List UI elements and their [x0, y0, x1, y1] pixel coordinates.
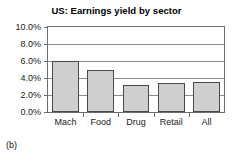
y-tick-label: 0.0% [20, 107, 41, 117]
y-axis: 0.0%2.0%4.0%6.0%8.0%10.0% [0, 26, 44, 113]
y-tick-label: 10.0% [15, 22, 41, 32]
bar [193, 82, 220, 112]
y-tick-label: 6.0% [20, 56, 41, 66]
y-tick-label: 4.0% [20, 73, 41, 83]
bar-slot [48, 27, 83, 112]
x-tick-label: Retail [160, 117, 183, 127]
x-tick-label: Food [91, 117, 112, 127]
x-tick-label: All [201, 117, 211, 127]
bar-slot [83, 27, 118, 112]
bar-slot [118, 27, 153, 112]
bar-slot [189, 27, 224, 112]
y-tick-label: 2.0% [20, 90, 41, 100]
bar [123, 85, 150, 112]
bar [52, 61, 79, 112]
bar [158, 83, 185, 112]
y-tick-label: 8.0% [20, 39, 41, 49]
figure-panel: US: Earnings yield by sector 0.0%2.0%4.0… [0, 0, 233, 164]
panel-caption: (b) [6, 140, 17, 150]
x-tick-label: Mach [55, 117, 77, 127]
bar-slot [154, 27, 189, 112]
bar [87, 70, 114, 113]
bar-series [48, 27, 224, 112]
chart-title: US: Earnings yield by sector [0, 5, 233, 16]
x-axis: MachFoodDrugRetailAll [48, 117, 224, 131]
x-tick-label: Drug [126, 117, 146, 127]
